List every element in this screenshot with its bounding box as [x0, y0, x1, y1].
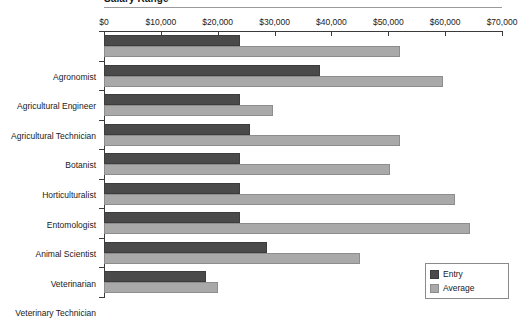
x-axis-tick-label: $0	[99, 17, 108, 27]
x-axis-tick-label: $40,000	[316, 17, 347, 27]
y-axis-category-label: Botanist	[65, 160, 96, 170]
x-axis-tick	[502, 31, 503, 36]
x-axis-tick-label: $50,000	[373, 17, 404, 27]
bar-entry	[104, 183, 240, 194]
bar-average	[104, 282, 218, 293]
bar-entry	[104, 65, 320, 76]
bar-average	[104, 46, 400, 57]
bar-average	[104, 76, 443, 87]
bar-entry	[104, 35, 240, 46]
y-axis-category-label: Horticulturalist	[42, 190, 96, 200]
legend-item-average: Average	[430, 281, 504, 295]
chart-title: Salary Range	[104, 0, 169, 4]
bar-entry	[104, 242, 267, 253]
x-axis-tick-label: $10,000	[145, 17, 176, 27]
y-axis-category-label: Entomologist	[47, 220, 96, 230]
bar-entry	[104, 124, 250, 135]
legend-swatch-average-icon	[430, 284, 439, 293]
x-axis-tick-labels: $0$10,000$20,000$30,000$40,000$50,000$60…	[0, 17, 532, 29]
legend-label-average: Average	[443, 283, 475, 293]
bar-average	[104, 135, 400, 146]
x-axis-tick-label: $60,000	[430, 17, 461, 27]
legend-swatch-entry-icon	[430, 270, 439, 279]
y-axis-category-label: Animal Scientist	[36, 249, 96, 259]
y-axis-category-label: Agricultural Engineer	[17, 101, 96, 111]
x-axis-tick-label: $20,000	[202, 17, 233, 27]
y-axis-category-label: Agronomist	[53, 72, 96, 82]
y-axis-category-label: Agricultural Technician	[11, 131, 96, 141]
title-divider	[104, 7, 502, 8]
legend-item-entry: Entry	[430, 267, 504, 281]
bar-entry	[104, 153, 240, 164]
bar-average	[104, 223, 470, 234]
y-axis-category-label: Veterinarian	[51, 279, 96, 289]
y-axis-category-labels: AgronomistAgricultural EngineerAgricultu…	[0, 31, 100, 297]
chart-legend: Entry Average	[425, 263, 509, 299]
plot-area	[104, 31, 502, 297]
bar-average	[104, 164, 390, 175]
y-axis-tick	[99, 297, 105, 298]
bar-entry	[104, 212, 240, 223]
y-axis-category-label: Veterinary Technician	[15, 308, 96, 318]
x-axis-tick-label: $70,000	[487, 17, 518, 27]
bar-entry	[104, 94, 240, 105]
bar-average	[104, 105, 273, 116]
bar-entry	[104, 271, 206, 282]
bar-average	[104, 253, 360, 264]
legend-label-entry: Entry	[443, 269, 463, 279]
bar-average	[104, 194, 455, 205]
x-axis-tick-label: $30,000	[259, 17, 290, 27]
